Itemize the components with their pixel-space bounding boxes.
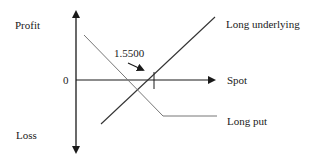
long-put-line [84,35,217,116]
profit-label: Profit [15,19,40,31]
payoff-diagram: Profit Loss 0 Spot 1.5500 Long underlyin… [0,0,316,159]
long-underlying-label: Long underlying [226,18,300,30]
loss-label: Loss [16,129,37,141]
spot-label: Spot [227,74,247,86]
strike-pointer-arrow [128,63,143,70]
long-put-label: Long put [227,115,267,127]
strike-label: 1.5500 [114,47,145,59]
zero-label: 0 [63,74,69,86]
